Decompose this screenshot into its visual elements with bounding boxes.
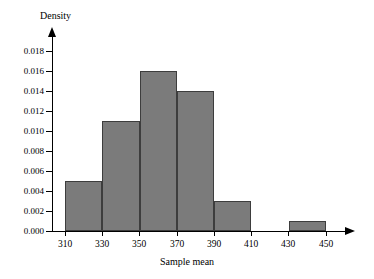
histogram-bar <box>177 91 214 231</box>
x-tick-mark <box>139 231 140 236</box>
y-tick-mark <box>46 91 53 92</box>
x-tick-label: 350 <box>119 239 159 249</box>
x-tick-mark <box>102 231 103 236</box>
x-tick-mark <box>177 231 178 236</box>
x-tick-mark <box>288 231 289 236</box>
x-tick-label: 410 <box>231 239 271 249</box>
y-tick-label: 0.000 <box>2 227 44 236</box>
plot-area: Density 0.000 0.002 0.004 0.006 0.008 0.… <box>0 0 374 279</box>
x-tick-mark <box>214 231 215 236</box>
x-tick-mark <box>251 231 252 236</box>
y-tick-label: 0.004 <box>2 187 44 196</box>
y-tick-label: 0.012 <box>2 107 44 116</box>
x-tick-label: 430 <box>268 239 308 249</box>
histogram-figure: Density 0.000 0.002 0.004 0.006 0.008 0.… <box>0 0 374 279</box>
x-tick-label: 450 <box>306 239 346 249</box>
y-tick-mark <box>46 231 53 232</box>
y-tick-label: 0.010 <box>2 127 44 136</box>
x-tick-label: 310 <box>45 239 85 249</box>
y-tick-mark <box>46 51 53 52</box>
y-tick-label: 0.002 <box>2 207 44 216</box>
x-axis-arrow-icon <box>345 227 355 235</box>
y-axis-arrow-icon <box>48 27 56 37</box>
y-tick-mark <box>46 191 53 192</box>
x-tick-mark <box>65 231 66 236</box>
x-axis-label: Sample mean <box>0 256 374 268</box>
y-tick-mark <box>46 151 53 152</box>
x-tick-label: 370 <box>157 239 197 249</box>
x-tick-label: 330 <box>82 239 122 249</box>
y-axis-line <box>52 36 53 232</box>
y-tick-mark <box>46 111 53 112</box>
x-tick-mark <box>326 231 327 236</box>
y-tick-label: 0.006 <box>2 167 44 176</box>
y-tick-mark <box>46 71 53 72</box>
histogram-bar <box>65 181 102 231</box>
y-tick-mark <box>46 171 53 172</box>
y-axis-label: Density <box>40 10 71 22</box>
y-tick-mark <box>46 211 53 212</box>
histogram-bar <box>140 71 177 231</box>
histogram-bar <box>214 201 251 231</box>
y-tick-mark <box>46 131 53 132</box>
y-tick-label: 0.008 <box>2 147 44 156</box>
x-axis-line <box>52 231 347 232</box>
y-tick-label: 0.014 <box>2 87 44 96</box>
histogram-bar <box>289 221 326 231</box>
histogram-bar <box>102 121 139 231</box>
y-tick-label: 0.018 <box>2 47 44 56</box>
y-tick-label: 0.016 <box>2 67 44 76</box>
x-tick-label: 390 <box>194 239 234 249</box>
